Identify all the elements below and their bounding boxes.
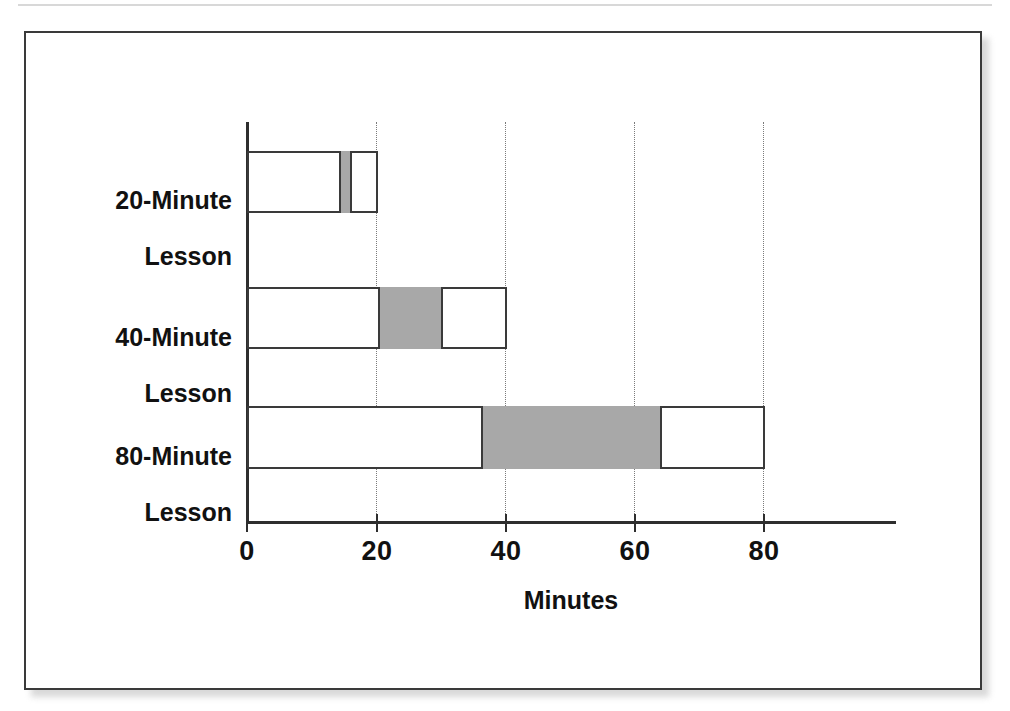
category-label-line2: Lesson	[144, 242, 232, 270]
x-tick-80	[763, 514, 765, 532]
category-label-line1: 20-Minute	[115, 186, 232, 214]
x-tick-label-60: 60	[605, 536, 665, 567]
category-label-80-minute-lesson: 80-Minute Lesson	[115, 414, 232, 526]
x-axis-line	[246, 521, 896, 524]
bar-segment-shaded-40	[378, 287, 443, 349]
x-tick-label-40: 40	[476, 536, 536, 567]
category-label-20-minute-lesson: 20-Minute Lesson	[115, 158, 232, 270]
category-label-40-minute-lesson: 40-Minute Lesson	[115, 295, 232, 407]
page-top-rule	[18, 4, 992, 6]
category-label-line1: 80-Minute	[115, 442, 232, 470]
bar-segment-shaded-20	[339, 151, 352, 213]
bar-40-minute-lesson	[247, 287, 507, 349]
category-label-line1: 40-Minute	[115, 323, 232, 351]
category-label-line2: Lesson	[144, 498, 232, 526]
category-label-line2: Lesson	[144, 379, 232, 407]
x-axis-title: Minutes	[246, 586, 896, 615]
x-tick-60	[634, 514, 636, 532]
x-tick-label-0: 0	[217, 536, 277, 567]
figure-frame: 0 20 40 60 80 Minutes 20-Minute Lesson 4…	[24, 31, 982, 690]
bar-80-minute-lesson	[247, 406, 765, 469]
x-tick-label-20: 20	[347, 536, 407, 567]
bar-20-minute-lesson	[247, 151, 378, 213]
x-tick-40	[505, 514, 507, 532]
bar-segment-shaded-80	[481, 406, 662, 469]
x-tick-0	[246, 514, 248, 532]
x-tick-label-80: 80	[734, 536, 794, 567]
x-tick-20	[376, 514, 378, 532]
chart-plot-area: 0 20 40 60 80 Minutes 20-Minute Lesson 4…	[26, 33, 984, 692]
